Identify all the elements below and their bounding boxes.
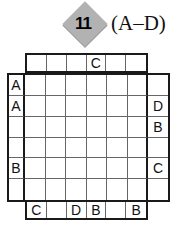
grid-cell-r5-c6[interactable] <box>128 158 149 179</box>
grid-cell-r4-c3[interactable] <box>66 138 87 159</box>
grid-cell-r4-c1[interactable] <box>25 138 46 159</box>
grid-cell-r6-c4[interactable] <box>87 179 108 200</box>
top-clue-cell-1 <box>27 55 47 71</box>
right-clue-cell-1 <box>148 75 168 96</box>
left-clue-cell-2: A <box>9 96 25 117</box>
grid-cell-r2-c6[interactable] <box>128 96 149 117</box>
top-clue-cell-5 <box>106 55 126 71</box>
grid-cell-r3-c5[interactable] <box>107 117 128 138</box>
grid-cell-r3-c3[interactable] <box>66 117 87 138</box>
right-clue-cell-2: D <box>148 96 168 117</box>
bottom-clue-cell-6: B <box>126 202 146 218</box>
grid-cell-r2-c3[interactable] <box>66 96 87 117</box>
grid-cell-r3-c1[interactable] <box>25 117 46 138</box>
grid-cell-r5-c2[interactable] <box>46 158 67 179</box>
grid-cell-r3-c6[interactable] <box>128 117 149 138</box>
top-clue-cell-3 <box>67 55 87 71</box>
grid-cell-r1-c4[interactable] <box>87 75 108 96</box>
right-clue-cell-6 <box>148 179 168 200</box>
right-clue-cell-5: C <box>148 158 168 179</box>
bottom-clue-cell-2 <box>47 202 67 218</box>
grid-cell-r5-c1[interactable] <box>25 158 46 179</box>
grid-cell-r4-c2[interactable] <box>46 138 67 159</box>
bottom-clue-cell-4: B <box>87 202 107 218</box>
main-grid: AADBBC <box>7 73 170 202</box>
top-clue-cell-6 <box>126 55 146 71</box>
grid-cell-r2-c1[interactable] <box>25 96 46 117</box>
puzzle-page: 11 (A–D) C AADBBC CDBB <box>0 0 181 230</box>
grid-cell-r4-c4[interactable] <box>87 138 108 159</box>
grid-cell-r2-c5[interactable] <box>107 96 128 117</box>
grid-cell-r5-c4[interactable] <box>87 158 108 179</box>
grid-cell-r1-c1[interactable] <box>25 75 46 96</box>
grid-cell-r6-c6[interactable] <box>128 179 149 200</box>
top-clue-cell-2 <box>47 55 67 71</box>
right-clue-cell-3: B <box>148 117 168 138</box>
bottom-clue-row: CDBB <box>25 200 148 220</box>
grid-cell-r4-c6[interactable] <box>128 138 149 159</box>
left-clue-cell-5: B <box>9 158 25 179</box>
top-clue-cell-4: C <box>87 55 107 71</box>
right-clue-cell-4 <box>148 138 168 159</box>
grid-cell-r6-c1[interactable] <box>25 179 46 200</box>
left-clue-cell-6 <box>9 179 25 200</box>
grid-cell-r3-c2[interactable] <box>46 117 67 138</box>
grid-cell-r3-c4[interactable] <box>87 117 108 138</box>
grid-cell-r1-c2[interactable] <box>46 75 67 96</box>
grid-cell-r6-c3[interactable] <box>66 179 87 200</box>
grid-cell-r6-c2[interactable] <box>46 179 67 200</box>
puzzle-number: 11 <box>67 8 99 40</box>
grid-cell-r4-c5[interactable] <box>107 138 128 159</box>
left-clue-cell-1: A <box>9 75 25 96</box>
left-clue-cell-3 <box>9 117 25 138</box>
grid-cell-r2-c2[interactable] <box>46 96 67 117</box>
top-clue-row: C <box>25 53 148 73</box>
grid-cell-r1-c6[interactable] <box>128 75 149 96</box>
bottom-clue-cell-5 <box>106 202 126 218</box>
grid-cell-r5-c3[interactable] <box>66 158 87 179</box>
bottom-clue-cell-3: D <box>67 202 87 218</box>
grid-cell-r1-c3[interactable] <box>66 75 87 96</box>
grid-cell-r6-c5[interactable] <box>107 179 128 200</box>
left-clue-cell-4 <box>9 138 25 159</box>
grid-cell-r2-c4[interactable] <box>87 96 108 117</box>
letter-range-label: (A–D) <box>111 9 166 37</box>
grid-cell-r1-c5[interactable] <box>107 75 128 96</box>
bottom-clue-cell-1: C <box>27 202 47 218</box>
grid-cell-r5-c5[interactable] <box>107 158 128 179</box>
